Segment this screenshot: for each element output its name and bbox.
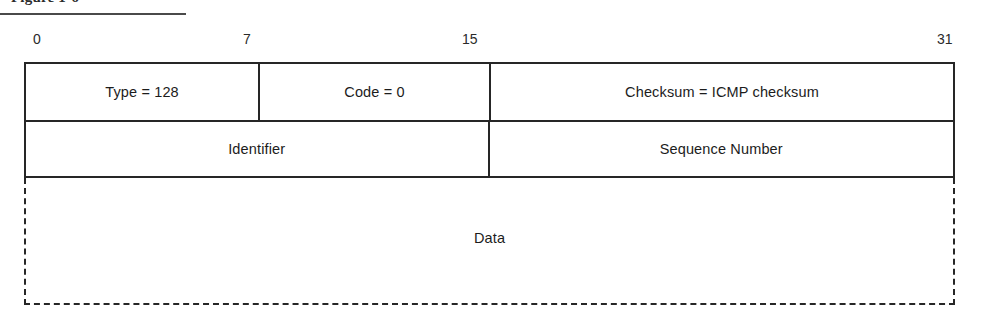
- bit-tick-15: 15: [462, 30, 478, 48]
- packet-format-diagram: Type = 128 Code = 0 Checksum = ICMP chec…: [24, 62, 955, 305]
- figure-caption: Figure 1-6: [11, 0, 79, 9]
- header-row-1: Type = 128 Code = 0 Checksum = ICMP chec…: [24, 62, 955, 120]
- data-field: Data: [24, 178, 955, 305]
- caption-rule: [0, 13, 186, 15]
- bit-tick-31: 31: [937, 30, 953, 48]
- identifier-field: Identifier: [26, 122, 490, 176]
- checksum-field: Checksum = ICMP checksum: [491, 64, 953, 120]
- bit-tick-0: 0: [33, 30, 41, 48]
- code-field: Code = 0: [260, 64, 491, 120]
- data-field-label: Data: [474, 230, 505, 246]
- bit-tick-7: 7: [243, 30, 251, 48]
- type-field: Type = 128: [26, 64, 260, 120]
- sequence-number-field: Sequence Number: [490, 122, 954, 176]
- bit-position-ruler: 0 7 15 31: [0, 30, 984, 54]
- header-row-2: Identifier Sequence Number: [24, 120, 955, 178]
